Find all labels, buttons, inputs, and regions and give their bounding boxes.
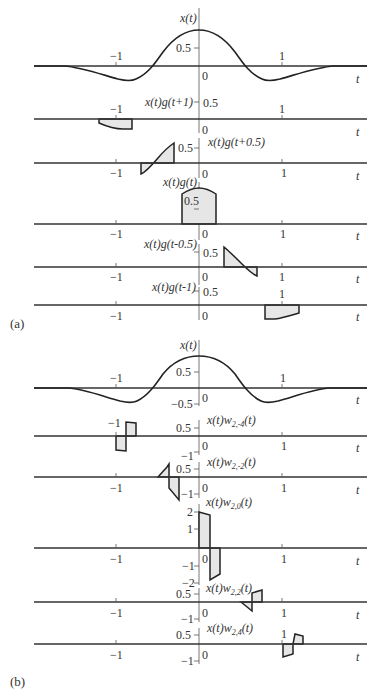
y-tick-label: −1 (181, 449, 194, 463)
plot-a-xg-plus05: x(t)g(t+0.5) 0.5 −1 0 1 t (34, 135, 367, 183)
plot-title: x(t)g(t+1) (144, 95, 193, 109)
plot-title: x(t) (179, 11, 197, 25)
plot-title: x(t)g(t-1) (151, 280, 196, 294)
y-tick-label: −1 (181, 612, 194, 626)
plot-a-xg-minus1: x(t)g(t-1) 0.5 1 −1 0 t (34, 280, 367, 324)
y-tick-label: 0.5 (203, 246, 218, 260)
x-axis-label: t (356, 169, 360, 183)
x-tick-label: 0 (202, 309, 208, 323)
x-tick-label: −1 (110, 227, 123, 241)
y-tick-label: −1 (181, 487, 194, 501)
y-tick-label: 1 (187, 522, 193, 536)
plot-title: x(t)w2,4(t) (206, 621, 253, 637)
y-tick-label: 0.5 (176, 41, 191, 55)
wavelet-segment-negative (210, 548, 220, 580)
panel-label-a: (a) (10, 316, 24, 331)
panel-b: x(t) 0.5 −0.5 −1 0 1 t x(t)w2,-4(t) 0.5 … (10, 338, 367, 689)
y-tick-label: 0.5 (176, 628, 191, 642)
x-axis-label: t (356, 608, 360, 622)
x-axis-label: t (356, 483, 360, 497)
y-tick-label: 0.5 (203, 96, 218, 110)
y-tick-label: 0.5 (184, 194, 199, 208)
wavelet-segment-negative (283, 644, 293, 657)
y-tick-label: 2 (187, 505, 193, 519)
plot-a-xg-plus1: x(t)g(t+1) 0.5 −1 0 1 t (34, 90, 367, 139)
y-tick-label: 0.5 (176, 365, 191, 379)
plot-b-x: x(t) 0.5 −0.5 −1 0 1 t (34, 338, 367, 411)
y-tick-label: 0.5 (176, 587, 191, 601)
figure: x(t) 0.5 −1 0 1 t x(t)g(t+1) 0.5 −1 0 1 … (0, 0, 377, 698)
wavelet-segment-positive (293, 634, 303, 644)
x-tick-label: −1 (110, 606, 123, 620)
wavelet-segment-negative (169, 477, 179, 500)
x-tick-label: 0 (202, 439, 208, 453)
x-tick-label: 1 (279, 270, 285, 284)
plot-title: x(t)w2,0(t) (205, 495, 252, 511)
wavelet-segment-positive (199, 512, 210, 548)
plot-title: x(t) (179, 338, 197, 352)
plot-a-x: x(t) 0.5 −1 0 1 t (34, 8, 367, 90)
plot-title: x(t)w2,2(t) (205, 581, 252, 597)
x-tick-label: −1 (110, 166, 123, 180)
wavelet-segment-negative (116, 436, 126, 451)
signal-curve (34, 30, 367, 81)
y-tick-label: −1 (182, 559, 195, 573)
plot-b-w-2: x(t)w2,2(t) 0.5 −1 −1 0 1 t (34, 581, 367, 626)
y-tick-label: 0.5 (176, 462, 191, 476)
y-tick-label: −1 (181, 654, 194, 668)
wavelet-segment-negative (241, 602, 252, 611)
x-axis-label: t (356, 310, 360, 324)
x-axis-label: t (356, 393, 360, 407)
x-axis-label: t (356, 72, 360, 86)
x-tick-label: 1 (280, 371, 286, 385)
x-tick-label: −1 (110, 102, 123, 116)
x-axis-label: t (356, 272, 360, 286)
x-tick-label: 1 (279, 102, 285, 116)
plot-b-w-minus4: x(t)w2,-4(t) 0.5 −1 −1 0 1 t (34, 413, 367, 463)
x-tick-label: 0 (202, 167, 208, 181)
x-tick-label: −1 (110, 309, 123, 323)
panel-label-b: (b) (10, 674, 25, 689)
panel-a: x(t) 0.5 −1 0 1 t x(t)g(t+1) 0.5 −1 0 1 … (10, 8, 367, 331)
y-tick-label: −0.5 (171, 397, 193, 411)
x-tick-label: 1 (280, 227, 286, 241)
plot-title: x(t)w2,-4(t) (206, 413, 256, 429)
x-tick-label: 1 (281, 439, 287, 453)
x-tick-label: −1 (108, 416, 121, 430)
wavelet-segment-positive (126, 422, 136, 436)
plot-a-xg-0: x(t)g(t) 0.5 −1 0 1 t (34, 175, 367, 243)
x-tick-label: 0 (202, 606, 208, 620)
x-axis-label: t (356, 441, 360, 455)
plot-b-w-minus2: x(t)w2,-2(t) 0.5 −1 −1 0 1 t (34, 455, 367, 501)
x-tick-label: −1 (110, 270, 123, 284)
x-tick-label: −1 (110, 371, 123, 385)
y-tick-label: 0.5 (203, 285, 218, 299)
windowed-segment (224, 247, 257, 276)
signal-curve (34, 356, 367, 403)
plot-a-xg-minus05: x(t)g(t-0.5) 0.5 −1 0 1 t (34, 237, 367, 286)
x-tick-label: 0 (202, 391, 208, 405)
y-tick-label: 0.5 (176, 421, 191, 435)
wavelet-segment-positive (252, 590, 262, 602)
wavelet-segment-positive (158, 464, 169, 477)
x-tick-label: −1 (110, 481, 123, 495)
x-tick-label: 0 (202, 648, 208, 662)
windowed-segment (141, 143, 174, 174)
x-tick-label: 0 (202, 552, 208, 566)
plot-title: x(t)w2,-2(t) (206, 455, 256, 471)
x-tick-label: 1 (281, 166, 287, 180)
x-tick-label: −1 (110, 552, 123, 566)
x-tick-label: 0 (202, 270, 208, 284)
extra-tick-label: 1 (279, 287, 285, 301)
x-axis-label: t (356, 125, 360, 139)
x-tick-label: 1 (279, 49, 285, 63)
x-tick-label: 1 (281, 552, 287, 566)
x-axis-label: t (356, 554, 360, 568)
x-tick-label: 0 (202, 481, 208, 495)
plot-b-w-4: x(t)w2,4(t) 0.5 −1 −1 0 1 t (34, 621, 367, 668)
x-tick-label: 1 (281, 481, 287, 495)
x-tick-label: −1 (110, 49, 123, 63)
x-tick-label: 0 (202, 227, 208, 241)
plot-title: x(t)g(t-0.5) (143, 237, 197, 251)
x-tick-label: 1 (281, 606, 287, 620)
